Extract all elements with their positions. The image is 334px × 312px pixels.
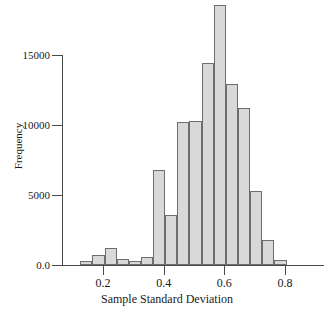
y-axis-tick	[52, 55, 62, 56]
histogram-bar	[105, 248, 117, 265]
y-axis-tick	[52, 195, 62, 196]
y-axis-tick-label: 5000	[0, 190, 50, 201]
x-axis-title: Sample Standard Deviation	[0, 292, 334, 307]
x-axis-tick-label: 0.2	[83, 277, 123, 290]
histogram-bar	[226, 84, 238, 265]
y-axis-tick	[52, 125, 62, 126]
x-axis-tick-label: 0.8	[265, 277, 305, 290]
histogram-bar	[262, 240, 274, 265]
histogram-bar	[165, 215, 177, 265]
histogram-bar	[153, 170, 165, 265]
histogram-bar	[177, 122, 189, 265]
x-axis-tick-label: 0.4	[144, 277, 184, 290]
y-axis-tick	[52, 265, 62, 266]
histogram-bar	[92, 255, 104, 266]
histogram-bar	[238, 108, 250, 266]
x-axis-tick	[285, 265, 286, 275]
y-axis-tick-label: 10000	[0, 120, 50, 131]
histogram-bar	[202, 63, 214, 265]
x-axis-tick-label: 0.6	[204, 277, 244, 290]
histogram-bar	[141, 257, 153, 265]
x-axis-tick	[164, 265, 165, 275]
y-axis-title: Frequency	[12, 86, 24, 206]
histogram-figure: 0.050001000015000 0.20.40.60.8 Frequency…	[0, 0, 334, 312]
plot-area	[62, 0, 324, 266]
histogram-bar	[214, 5, 226, 265]
histogram-bar	[189, 121, 201, 265]
y-axis-line	[62, 55, 63, 266]
x-axis-tick	[103, 265, 104, 275]
x-axis-line	[52, 265, 324, 266]
x-axis-tick	[224, 265, 225, 275]
histogram-bar	[250, 191, 262, 265]
y-axis-tick-label: 15000	[0, 50, 50, 61]
y-axis-tick-label: 0.0	[0, 260, 50, 271]
